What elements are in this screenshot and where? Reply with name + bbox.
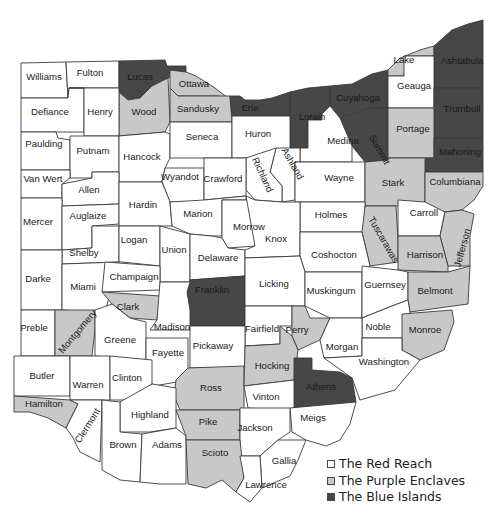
county-label-ross: Ross: [200, 382, 222, 393]
county-label-logan: Logan: [121, 234, 148, 245]
county-label-lucas: Lucas: [127, 71, 153, 82]
county-label-lake: Lake: [394, 54, 415, 65]
county-label-muskingum: Muskingum: [306, 285, 355, 296]
county-label-fairfield: Fairfield: [245, 323, 279, 334]
county-label-belmont: Belmont: [417, 285, 453, 296]
county-label-wyandot: Wyandot: [161, 171, 199, 182]
county-label-paulding: Paulding: [25, 138, 62, 149]
county-label-mahoning: Mahoning: [439, 146, 481, 157]
county-adams[interactable]: [140, 428, 186, 484]
county-label-mercer: Mercer: [23, 216, 54, 227]
county-label-crawford: Crawford: [204, 173, 243, 184]
county-label-preble: Preble: [20, 322, 48, 333]
county-label-franklin: Franklin: [195, 284, 229, 295]
county-label-brown: Brown: [109, 439, 136, 450]
county-label-clinton: Clinton: [112, 372, 142, 383]
county-label-morrow: Morrow: [233, 221, 265, 232]
county-label-wayne: Wayne: [324, 172, 354, 183]
county-label-greene: Greene: [104, 334, 136, 345]
county-label-allen: Allen: [78, 184, 99, 195]
county-label-trumbull: Trumbull: [444, 103, 481, 114]
county-label-wood: Wood: [132, 106, 157, 117]
county-label-columbiana: Columbiana: [429, 176, 481, 187]
county-label-erie: Erie: [241, 102, 258, 113]
county-label-putnam: Putnam: [76, 145, 109, 156]
swatch-red-reach-icon: [327, 460, 335, 468]
county-label-marion: Marion: [183, 208, 212, 219]
county-label-shelby: Shelby: [69, 247, 99, 258]
county-label-miami: Miami: [70, 281, 96, 292]
county-label-gallia: Gallia: [272, 455, 297, 466]
legend-item-purple-enclaves: The Purple Enclaves: [327, 473, 465, 490]
county-label-perry: Perry: [286, 324, 309, 335]
county-label-seneca: Seneca: [186, 131, 219, 142]
county-label-cuyahoga: Cuyahoga: [336, 92, 380, 103]
county-label-fulton: Fulton: [77, 67, 104, 78]
county-label-highland: Highland: [131, 409, 169, 420]
county-label-huron: Huron: [245, 128, 271, 139]
county-label-hardin: Hardin: [129, 199, 157, 210]
county-label-union: Union: [161, 244, 186, 255]
county-label-van-wert: Van Wert: [23, 173, 62, 184]
county-label-coshocton: Coshocton: [311, 249, 357, 260]
county-label-jackson: Jackson: [237, 422, 272, 433]
county-label-medina: Medina: [327, 135, 359, 146]
county-label-ottawa: Ottawa: [179, 78, 210, 89]
county-label-lorain: Lorain: [299, 111, 326, 122]
county-label-portage: Portage: [396, 123, 430, 134]
county-label-darke: Darke: [25, 273, 51, 284]
county-erie[interactable]: [230, 92, 290, 116]
county-label-morgan: Morgan: [326, 341, 359, 352]
county-label-vinton: Vinton: [252, 391, 279, 402]
county-label-geauga: Geauga: [397, 80, 432, 91]
county-monroe[interactable]: [402, 310, 454, 360]
county-label-monroe: Monroe: [409, 324, 442, 335]
county-label-pickaway: Pickaway: [193, 340, 234, 351]
county-label-madison: Madison: [154, 321, 190, 332]
county-meigs[interactable]: [290, 402, 356, 446]
county-label-washington: Washington: [359, 356, 409, 367]
county-label-licking: Licking: [259, 278, 289, 289]
county-label-delaware: Delaware: [198, 252, 239, 263]
swatch-purple-enclaves-icon: [327, 477, 335, 485]
county-label-harrison: Harrison: [407, 249, 443, 260]
county-label-noble: Noble: [365, 321, 390, 332]
county-label-williams: Williams: [26, 71, 62, 82]
ohio-county-map: WilliamsFultonLucasWoodOttawaSanduskyEri…: [0, 0, 491, 525]
legend-label: The Purple Enclaves: [339, 473, 465, 490]
county-label-hamilton: Hamilton: [25, 398, 63, 409]
county-logan[interactable]: [119, 226, 160, 266]
county-label-warren: Warren: [72, 379, 103, 390]
county-label-hancock: Hancock: [123, 151, 161, 162]
county-label-adams: Adams: [152, 439, 182, 450]
legend-label: The Blue Islands: [339, 489, 442, 506]
county-label-athens: Athens: [306, 381, 336, 392]
county-label-champaign: Champaign: [109, 271, 158, 282]
county-label-lawrence: Lawrence: [245, 479, 287, 490]
county-label-butler: Butler: [29, 370, 55, 381]
county-label-knox: Knox: [265, 233, 287, 244]
county-label-stark: Stark: [382, 177, 405, 188]
county-preble[interactable]: [21, 310, 55, 356]
county-label-auglaize: Auglaize: [70, 210, 107, 221]
county-label-guernsey: Guernsey: [364, 279, 406, 290]
swatch-blue-islands-icon: [327, 493, 335, 501]
county-label-defiance: Defiance: [31, 106, 69, 117]
county-label-fayette: Fayette: [152, 347, 184, 358]
county-label-pike: Pike: [199, 416, 218, 427]
county-label-sandusky: Sandusky: [177, 103, 219, 114]
county-label-hocking: Hocking: [255, 360, 290, 371]
legend-item-red-reach: The Red Reach: [327, 456, 465, 473]
county-label-ashtabula: Ashtabula: [441, 55, 484, 66]
map-legend: The Red Reach The Purple Enclaves The Bl…: [327, 456, 465, 506]
county-label-carroll: Carroll: [410, 207, 438, 218]
legend-item-blue-islands: The Blue Islands: [327, 489, 465, 506]
county-label-meigs: Meigs: [300, 412, 326, 423]
legend-label: The Red Reach: [339, 456, 432, 473]
county-label-scioto: Scioto: [202, 447, 229, 458]
county-label-clark: Clark: [117, 301, 140, 312]
county-label-holmes: Holmes: [315, 209, 348, 220]
county-label-henry: Henry: [87, 106, 113, 117]
